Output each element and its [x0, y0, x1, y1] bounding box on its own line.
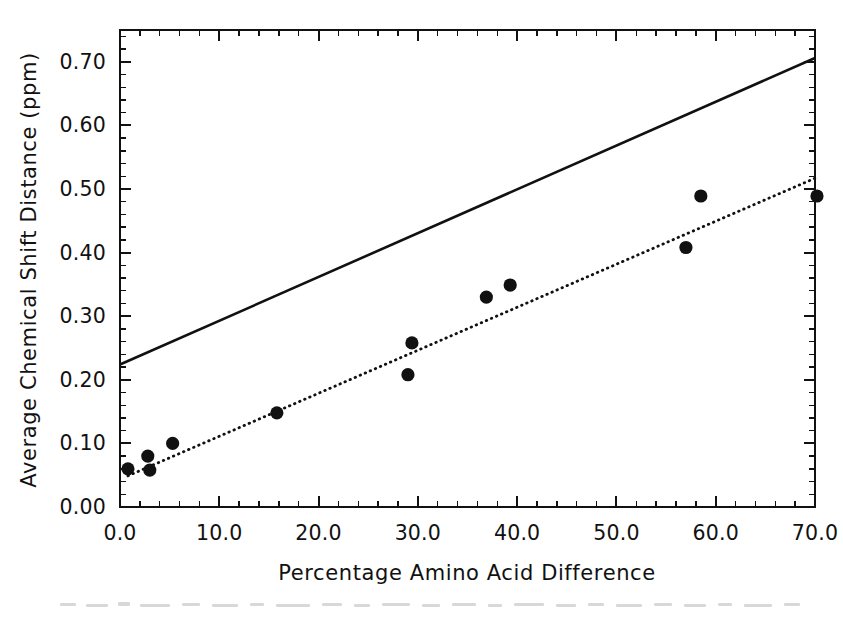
x-tick-label: 50.0: [593, 521, 639, 545]
data-point: [810, 189, 823, 202]
data-point: [480, 291, 493, 304]
y-tick-label: 0.70: [60, 50, 106, 74]
data-point: [694, 189, 707, 202]
x-axis-title: Percentage Amino Acid Difference: [278, 561, 655, 585]
x-tick-label: 60.0: [692, 521, 738, 545]
y-tick-label: 0.50: [60, 177, 106, 201]
data-point: [504, 278, 517, 291]
y-axis-title: Average Chemical Shift Distance (ppm): [17, 52, 41, 488]
chart-figure: 0.010.020.030.040.050.060.070.0 0.000.10…: [0, 0, 843, 617]
data-point: [141, 450, 154, 463]
x-tick-label: 40.0: [494, 521, 540, 545]
y-tick-label: 0.40: [60, 241, 106, 265]
y-tick-label: 0.00: [60, 495, 106, 519]
data-point: [270, 406, 283, 419]
data-point: [143, 464, 156, 477]
y-tick-label: 0.60: [60, 113, 106, 137]
x-tick-label: 20.0: [295, 521, 341, 545]
y-tick-label: 0.30: [60, 304, 106, 328]
scatter-plot-canvas: 0.010.020.030.040.050.060.070.0 0.000.10…: [0, 0, 843, 617]
data-point: [401, 368, 414, 381]
data-point: [679, 241, 692, 254]
y-tick-label: 0.20: [60, 368, 106, 392]
x-tick-label: 0.0: [103, 521, 136, 545]
data-point: [166, 437, 179, 450]
x-tick-label: 30.0: [395, 521, 441, 545]
x-tick-label: 10.0: [196, 521, 242, 545]
data-point: [405, 336, 418, 349]
x-tick-label: 70.0: [792, 521, 838, 545]
y-tick-label: 0.10: [60, 431, 106, 455]
data-point: [121, 462, 134, 475]
